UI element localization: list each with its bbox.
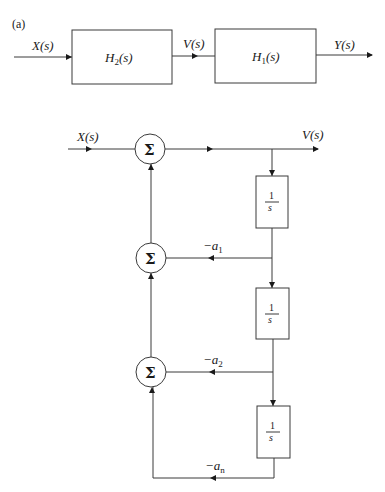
left-arrow-3-icon <box>149 387 155 393</box>
panel-label: (a) <box>12 17 25 31</box>
gain-n-label: −an <box>205 458 225 475</box>
top-output-arrow-icon <box>367 52 373 58</box>
left-arrow-1-icon <box>148 164 154 170</box>
block-h2-label: H2(s) <box>104 50 133 67</box>
integrator-1-num: 1 <box>269 190 274 201</box>
gain-1-label: −a1 <box>203 238 223 255</box>
top-intermediate-label: V(s) <box>183 36 205 51</box>
bottom-input-arrow-icon <box>86 146 92 152</box>
integrator-2-den: s <box>268 314 272 325</box>
chain-arrow-1-icon <box>269 170 275 176</box>
summer-1-symbol: Σ <box>144 141 155 159</box>
left-arrow-2-icon <box>148 273 154 279</box>
gain-2-label: −a2 <box>203 352 223 369</box>
integrator-3-den: s <box>269 432 273 443</box>
top-output-label: Y(s) <box>334 37 355 52</box>
integrator-2-num: 1 <box>269 302 274 313</box>
summer-2-symbol: Σ <box>145 250 156 268</box>
bottom-output-label: V(s) <box>302 127 324 142</box>
top-input-label: X(s) <box>31 38 54 53</box>
bottom-input-label: X(s) <box>76 129 99 144</box>
block-diagram: (a) X(s) H2(s) V(s) H1(s) Y(s) X(s) Σ V(… <box>0 0 385 492</box>
feedback-arrow-n-icon <box>210 475 216 481</box>
integrator-1-den: s <box>268 202 272 213</box>
summer-3-symbol: Σ <box>145 364 156 382</box>
chain-arrow-3-icon <box>270 400 276 406</box>
top-middle-arrow-icon <box>192 53 198 59</box>
output-arrow-icon <box>313 146 319 152</box>
integrator-3-num: 1 <box>270 420 275 431</box>
feedback-arrow-1-icon <box>208 255 214 261</box>
block-h1-label: H1(s) <box>251 49 280 66</box>
forward-arrow-icon <box>207 146 213 152</box>
chain-arrow-2-icon <box>269 282 275 288</box>
top-input-arrow-icon <box>66 54 72 60</box>
feedback-arrow-2-icon <box>209 369 215 375</box>
